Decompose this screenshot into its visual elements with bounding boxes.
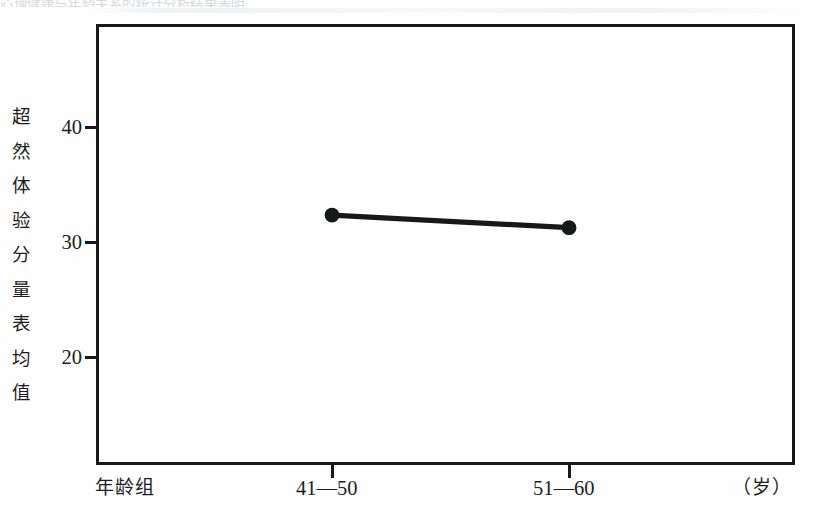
- y-axis-title: 超 然 体 验 分 量 表 均 值: [8, 100, 34, 411]
- y-axis-tick-label-40: 40: [36, 117, 82, 138]
- y-axis-title-char: 验: [12, 204, 31, 239]
- y-axis-title-char: 体: [12, 169, 31, 204]
- scan-artifact-text: 心理健康与年龄关系的统计分析结果表明: [0, 0, 813, 7]
- y-axis-tick-30: [85, 241, 98, 244]
- y-axis-title-char: 均: [12, 342, 31, 377]
- x-axis-title: 年龄组: [95, 476, 155, 500]
- plot-frame: [96, 24, 795, 465]
- x-axis-unit-label: （岁）: [732, 476, 792, 500]
- y-axis-title-char: 然: [12, 135, 31, 170]
- y-axis-tick-label-20: 20: [36, 347, 82, 368]
- scan-artifact-smudge: [80, 8, 813, 13]
- x-axis-tick-label-51-60: 51—60: [533, 476, 595, 502]
- figure-line-chart: 心理健康与年龄关系的统计分析结果表明 40 30 20 超 然 体 验 分 量 …: [0, 0, 813, 518]
- y-axis-tick-label-30: 30: [36, 232, 82, 253]
- y-axis-tick-40: [85, 126, 98, 129]
- x-axis-tick-label-41-50: 41—50: [296, 476, 358, 502]
- y-axis-title-char: 分: [12, 238, 31, 273]
- y-axis-title-char: 超: [12, 100, 31, 135]
- y-axis-title-char: 量: [12, 273, 31, 308]
- y-axis-title-char: 表: [12, 307, 31, 342]
- y-axis-tick-20: [85, 356, 98, 359]
- y-axis-title-char: 值: [12, 376, 31, 411]
- y-axis-tick-labels: 40 30 20: [28, 0, 82, 518]
